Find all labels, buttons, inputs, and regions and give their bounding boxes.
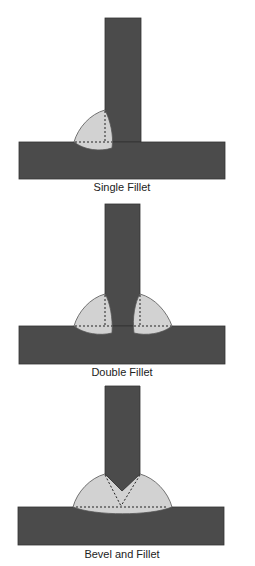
weld-joints-diagram [0, 0, 255, 566]
single-fillet-joint [19, 18, 225, 179]
right-fillet-weld [133, 294, 172, 334]
beveled-vertical-plate [105, 386, 140, 491]
left-fillet-weld [74, 294, 112, 334]
bevel-and-fillet-joint [18, 386, 224, 545]
base-plate [19, 142, 225, 179]
single-fillet-caption: Single Fillet [0, 181, 244, 193]
bevel-and-fillet-caption: Bevel and Fillet [0, 548, 244, 560]
double-fillet-caption: Double Fillet [0, 366, 244, 378]
base-plate [19, 326, 225, 364]
double-fillet-joint [19, 204, 225, 364]
fillet-weld [74, 110, 113, 150]
